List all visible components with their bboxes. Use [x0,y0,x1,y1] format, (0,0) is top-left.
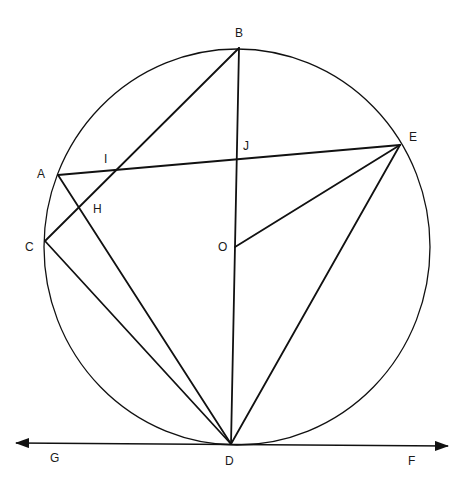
label-g: G [50,451,59,465]
segment-ed [231,145,400,444]
label-f: F [408,454,415,468]
label-i: I [104,152,107,166]
label-h: H [93,202,102,216]
label-d: D [225,454,234,468]
segment-oe [235,145,400,247]
label-a: A [37,167,45,181]
label-j: J [243,139,249,153]
segment-bc [45,48,239,241]
label-e: E [409,130,417,144]
label-b: B [235,26,243,40]
segment-ae [58,145,400,175]
label-o: O [218,240,227,254]
segment-cd [45,241,231,444]
geometry-diagram: B E A C D O J I H G F [0,0,476,486]
segment-ad [58,175,231,444]
label-c: C [25,240,34,254]
